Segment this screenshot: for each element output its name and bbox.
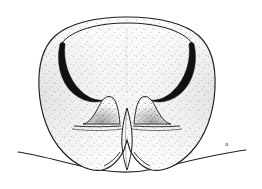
anatomical-figure-drawing xyxy=(0,0,262,189)
panel-label: a xyxy=(225,141,228,148)
